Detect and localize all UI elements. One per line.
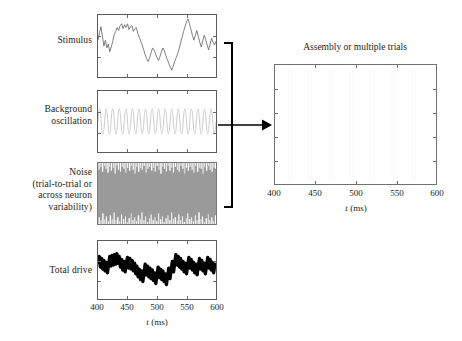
assembly-raster <box>275 65 436 184</box>
x-tick-label: 500 <box>349 188 363 198</box>
tick <box>127 241 128 244</box>
tick <box>127 296 128 299</box>
noise-band <box>98 163 216 224</box>
tick <box>397 65 398 68</box>
x-tick-label: 450 <box>308 188 322 198</box>
right-panel-title: Assembly or multiple trials <box>303 42 407 52</box>
bracket-arrow-connector <box>218 40 276 210</box>
tick <box>98 112 101 113</box>
tick <box>157 74 158 77</box>
tick <box>433 113 436 114</box>
x-tick-label: 400 <box>267 188 281 198</box>
tick <box>213 281 216 282</box>
tick <box>157 15 158 18</box>
x-axis-title-unit: (ms) <box>348 203 367 213</box>
tick <box>157 296 158 299</box>
x-axis-title: t (ms) <box>146 317 167 327</box>
tick <box>98 261 101 262</box>
x-tick-label: 600 <box>210 302 224 312</box>
panel-label-stimulus: Stimulus <box>0 35 92 47</box>
tick <box>213 57 216 58</box>
tick <box>127 91 128 94</box>
tick <box>187 296 188 299</box>
tick <box>213 133 216 134</box>
bracket-arrow-icon <box>218 40 276 210</box>
label-line: variability) <box>0 202 92 214</box>
tick <box>98 36 101 37</box>
panel-label-noise: Noise (trial-to-trial or across neuron v… <box>0 167 92 213</box>
label-line: Total drive <box>0 265 92 277</box>
x-axis-title: t (ms) <box>345 203 366 213</box>
label-line: oscillation <box>0 116 92 128</box>
tick <box>213 261 216 262</box>
stimulus-trace <box>98 15 216 77</box>
tick <box>127 15 128 18</box>
tick <box>98 57 101 58</box>
tick <box>315 65 316 68</box>
tick <box>127 74 128 77</box>
tick <box>187 91 188 94</box>
tick <box>275 161 278 162</box>
x-tick-label: 500 <box>150 302 164 312</box>
panel-total-drive <box>97 240 217 300</box>
tick <box>98 281 101 282</box>
label-line: Noise <box>0 167 92 179</box>
tick <box>356 65 357 68</box>
tick <box>187 74 188 77</box>
label-line: Background <box>0 104 92 116</box>
tick <box>213 112 216 113</box>
x-tick-label: 550 <box>390 188 404 198</box>
tick <box>157 91 158 94</box>
tick <box>127 149 128 152</box>
tick <box>157 241 158 244</box>
tick <box>433 89 436 90</box>
tick <box>275 89 278 90</box>
x-tick-label: 400 <box>90 302 104 312</box>
label-line: across neuron <box>0 190 92 202</box>
tick <box>433 161 436 162</box>
panel-noise <box>97 162 217 225</box>
label-line: Stimulus <box>0 35 92 47</box>
tick <box>356 181 357 184</box>
panel-stimulus <box>97 14 217 78</box>
tick <box>213 36 216 37</box>
tick <box>397 181 398 184</box>
x-tick-label: 600 <box>430 188 444 198</box>
tick <box>433 137 436 138</box>
tick <box>187 241 188 244</box>
panel-label-total-drive: Total drive <box>0 265 92 277</box>
x-tick-label: 550 <box>180 302 194 312</box>
tick <box>315 181 316 184</box>
tick <box>157 149 158 152</box>
tick <box>98 133 101 134</box>
figure-canvas: Stimulus Background oscillation Noise (t… <box>0 0 462 341</box>
total-drive-trace <box>98 241 216 299</box>
panel-label-background-oscillation: Background oscillation <box>0 104 92 127</box>
x-tick-label: 450 <box>120 302 134 312</box>
tick <box>275 137 278 138</box>
panel-background-oscillation <box>97 90 217 153</box>
panel-assembly <box>274 64 437 185</box>
tick <box>275 113 278 114</box>
tick <box>187 149 188 152</box>
x-axis-title-unit: (ms) <box>149 317 168 327</box>
background-oscillation-trace <box>98 91 216 152</box>
tick <box>187 15 188 18</box>
label-line: (trial-to-trial or <box>0 179 92 191</box>
